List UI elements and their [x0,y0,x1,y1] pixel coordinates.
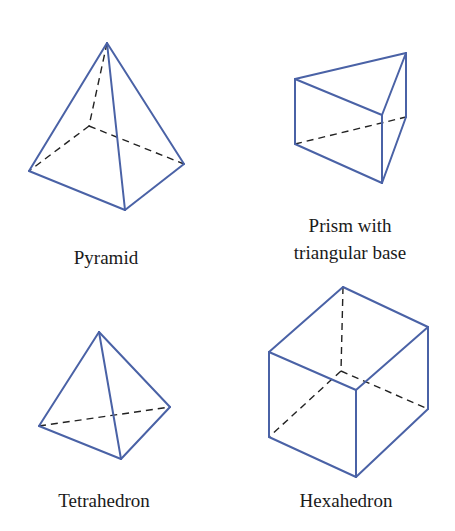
prism-label-line2: triangular base [280,239,420,266]
pyramid-label: Pyramid [56,244,156,271]
pyramid-drawing [29,43,184,210]
hexahedron-label: Hexahedron [286,487,406,514]
hexahedron-drawing [269,287,428,477]
prism-drawing [295,53,406,183]
tetrahedron-drawing [39,332,170,459]
tetrahedron-label: Tetrahedron [44,487,164,514]
prism-label-line1: Prism with [280,212,420,239]
